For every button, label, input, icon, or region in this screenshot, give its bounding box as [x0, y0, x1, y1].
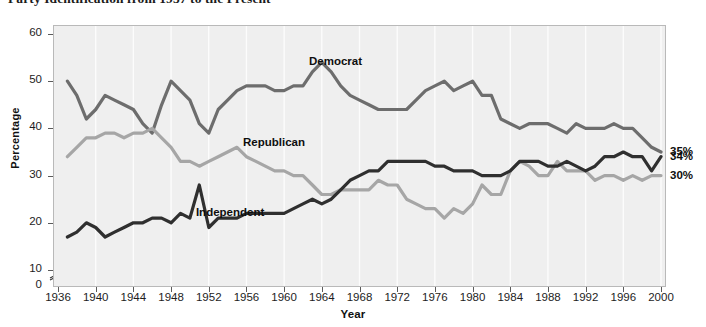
y-tick-label: 40	[2, 120, 42, 132]
series-label-republican: Republican	[243, 136, 305, 148]
y-tick-label: 60	[2, 26, 42, 38]
x-axis-title: Year	[0, 308, 706, 320]
x-tick-mark	[284, 287, 285, 292]
x-tick-mark	[58, 287, 59, 292]
series-label-independent: Independent	[196, 206, 264, 218]
y-tick-label: 50	[2, 73, 42, 85]
chart-title: Party Identification from 1937 to the Pr…	[8, 0, 271, 7]
x-tick-mark	[473, 287, 474, 292]
y-tick-label: 10	[2, 262, 42, 274]
x-tick-mark	[171, 287, 172, 292]
series-line-independent	[67, 152, 661, 237]
x-tick-mark	[623, 287, 624, 292]
x-tick-label: 2000	[637, 291, 685, 303]
x-tick-mark	[397, 287, 398, 292]
y-tick-label: 0	[2, 278, 42, 290]
chart-root: Party Identification from 1937 to the Pr…	[0, 0, 706, 327]
x-tick-mark	[661, 287, 662, 292]
series-line-democrat	[67, 62, 661, 152]
x-tick-mark	[510, 287, 511, 292]
x-tick-mark	[133, 287, 134, 292]
series-label-democrat: Democrat	[309, 55, 362, 67]
end-label-independent: 34%	[670, 150, 693, 162]
y-tick-label: 20	[2, 215, 42, 227]
x-tick-mark	[360, 287, 361, 292]
x-tick-mark	[435, 287, 436, 292]
x-tick-mark	[96, 287, 97, 292]
x-tick-mark	[209, 287, 210, 292]
y-axis-title: Percentage	[9, 107, 21, 168]
x-tick-mark	[246, 287, 247, 292]
x-tick-mark	[586, 287, 587, 292]
x-tick-mark	[322, 287, 323, 292]
end-label-republican: 30%	[670, 169, 693, 181]
y-tick-label: 30	[2, 168, 42, 180]
x-tick-mark	[548, 287, 549, 292]
